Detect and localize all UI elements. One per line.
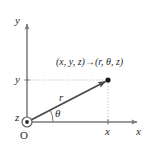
z-axis-label: z — [15, 112, 19, 123]
radius-vector — [31, 82, 106, 121]
z-axis-out-of-page-symbol — [22, 117, 32, 127]
figure-container: y x z O y x r θ (x, y, z)→(r, θ, z) — [0, 0, 157, 151]
coordinate-mapping-annotation: (x, y, z)→(r, θ, z) — [56, 57, 123, 67]
cylindrical-coordinates-label: (r, θ, z) — [95, 56, 123, 67]
x-tick-label: x — [105, 126, 110, 137]
point-marker — [105, 77, 110, 82]
x-axis-label: x — [136, 126, 141, 137]
mapping-arrow-icon: → — [85, 56, 95, 67]
rectangular-coordinates-label: (x, y, z) — [56, 56, 85, 67]
y-tick-label: y — [15, 74, 20, 85]
origin-label: O — [20, 130, 28, 141]
theta-label: θ — [55, 108, 60, 119]
theta-angle-arc — [51, 111, 54, 123]
y-axis-label: y — [15, 15, 20, 26]
radius-label: r — [59, 92, 63, 103]
